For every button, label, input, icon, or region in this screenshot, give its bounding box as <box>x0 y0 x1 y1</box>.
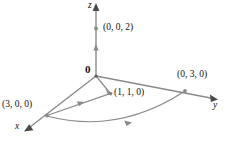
point-label-110: (1, 1, 0) <box>114 88 144 98</box>
point-label-030: (0, 3, 0) <box>177 70 207 80</box>
z-axis-arrowhead-icon <box>93 3 100 11</box>
x-axis-group <box>24 76 96 132</box>
arc-arrow-icon <box>124 121 132 127</box>
segment-300-to-110 <box>47 94 110 116</box>
coordinate-axes-figure: z (0, 0, 2) 0 (0, 3, 0) y (3, 0, 0) (1, … <box>0 0 229 142</box>
point-label-002: (0, 0, 2) <box>103 23 133 33</box>
segment-300-110-arrow-icon <box>77 102 84 107</box>
y-axis-label: y <box>213 101 217 111</box>
z-axis-group <box>93 3 100 76</box>
z-axis-label: z <box>88 1 92 11</box>
origin-label: 0 <box>85 64 91 75</box>
origin-marker <box>94 74 97 77</box>
x-axis-label: x <box>15 122 19 132</box>
point-label-300: (3, 0, 0) <box>2 100 32 110</box>
point-marker-z <box>94 27 98 31</box>
z-axis-direction-arrow-icon <box>93 44 98 51</box>
